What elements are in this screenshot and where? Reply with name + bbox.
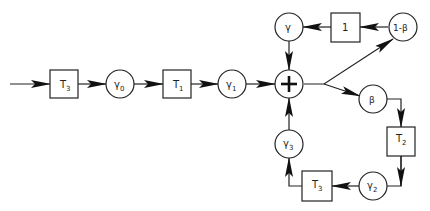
block-diagram: T3 γ0 T1 γ1 γ 1 1-β β T2 γ2 T3 γ3 [0,0,430,211]
edge-T3-g3 [289,158,302,186]
label-gamma: γ [285,22,291,33]
label-1minusbeta: 1-β [393,23,408,33]
edge-T2-g2-a [387,156,401,186]
label-beta: β [369,95,375,105]
edge-beta-T2 [387,99,401,127]
edge-sum-beta [324,84,360,96]
node-gamma1 [218,70,246,98]
label-one: 1 [342,22,348,33]
node-gamma0 [106,70,134,98]
edge-sum-1minusbeta [304,39,393,84]
